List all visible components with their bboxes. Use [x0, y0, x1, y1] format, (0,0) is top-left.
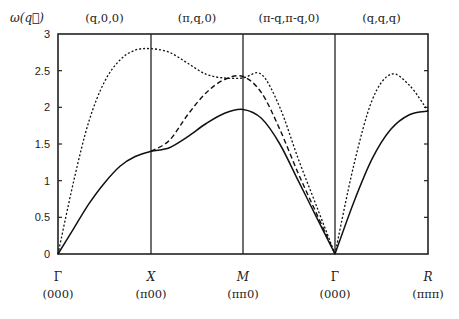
y-tick-label: 1 — [44, 175, 50, 187]
point-name-R: R — [422, 270, 432, 284]
y-tick-label: 2 — [44, 101, 50, 113]
point-coord: (000) — [320, 287, 351, 301]
y-tick-label: 3 — [44, 28, 50, 40]
y-tick-label: 0.5 — [35, 211, 50, 223]
point-name-Γ: Γ — [331, 270, 339, 284]
point-coord: (π00) — [135, 287, 166, 301]
y-tick-label: 1.5 — [35, 138, 50, 150]
segment-label: (π,q,0) — [178, 11, 217, 25]
y-tick-label: 0 — [44, 248, 50, 260]
segment-label: (q,q,q) — [362, 11, 400, 25]
point-name-X: X — [146, 270, 156, 284]
point-coord: (000) — [43, 287, 74, 301]
point-name-Γ: Γ — [54, 270, 62, 284]
point-name-M: M — [236, 270, 250, 284]
phonon-dispersion-chart: 00.511.522.53ω(q⃗)(q,0,0)(π,q,0)(π-q,π-q… — [0, 0, 459, 319]
y-axis-label: ω(q⃗) — [10, 11, 44, 25]
segment-label: (π-q,π-q,0) — [258, 11, 319, 25]
point-coord: (πππ) — [412, 287, 444, 301]
y-tick-label: 2.5 — [35, 65, 50, 77]
point-coord: (ππ0) — [227, 287, 258, 301]
segment-label: (q,0,0) — [85, 11, 123, 25]
